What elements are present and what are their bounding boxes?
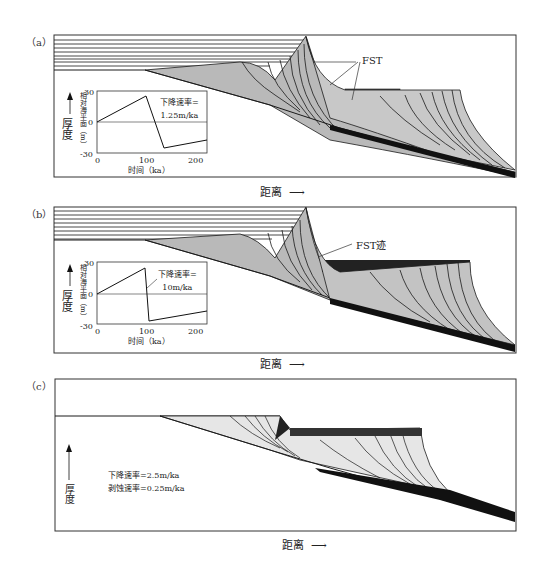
panel-c-y-arrow — [0, 0, 544, 563]
arrow-right-icon: ⟶ — [308, 539, 327, 552]
panel-c-y-axis-label: 厚度 — [62, 484, 75, 504]
panel-c-x-axis-label: 距离 ⟶ — [282, 536, 327, 552]
